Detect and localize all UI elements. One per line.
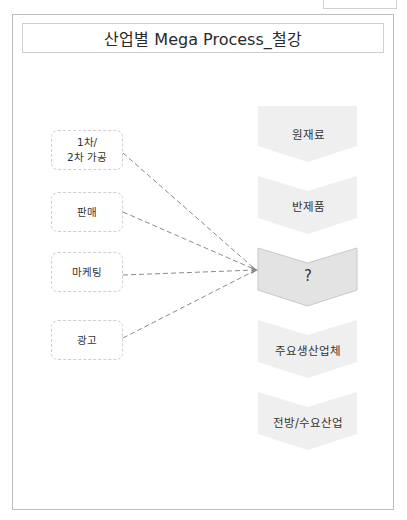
step-label-downstream-industries: 전방/수요산업: [258, 414, 358, 430]
connector-processing: [123, 153, 256, 270]
step-label-semi-finished: 반제품: [258, 198, 358, 214]
connector-sales: [123, 212, 256, 270]
arrowhead-icon: [251, 266, 258, 274]
step-label-major-producers: 주요생산업체: [258, 342, 358, 358]
left-item-processing: 1차/ 2차 가공: [51, 130, 123, 170]
step-label-unknown: ?: [258, 267, 358, 285]
left-item-advertising: 광고: [51, 320, 123, 360]
left-item-sales: 판매: [51, 192, 123, 232]
step-label-raw-materials: 원재료: [258, 126, 358, 142]
connector-marketing: [123, 270, 256, 275]
connector-advertising: [123, 270, 256, 338]
left-item-marketing: 마케팅: [51, 252, 123, 292]
